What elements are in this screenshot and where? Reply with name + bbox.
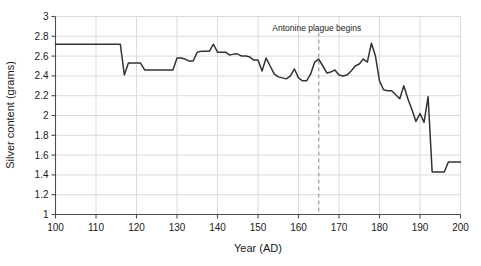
x-tick-label: 200 bbox=[452, 222, 469, 233]
x-tick-label: 110 bbox=[88, 222, 104, 233]
y-tick-label: 2.6 bbox=[35, 51, 49, 62]
x-tick-label: 120 bbox=[128, 222, 145, 233]
y-tick-label: 1.6 bbox=[35, 150, 49, 161]
y-tick-label: 2.2 bbox=[35, 90, 49, 101]
x-tick-label: 150 bbox=[250, 222, 267, 233]
y-tick-label: 1.2 bbox=[35, 189, 49, 200]
x-tick-label: 160 bbox=[290, 222, 307, 233]
y-tick-label: 1.8 bbox=[35, 130, 49, 141]
x-tick-label: 180 bbox=[371, 222, 388, 233]
y-tick-label: 2 bbox=[43, 110, 49, 121]
y-tick-label: 2.4 bbox=[35, 70, 49, 81]
silver-content-line-chart: 100110120130140150160170180190200 11.21.… bbox=[0, 0, 481, 266]
y-tick-label: 1.4 bbox=[35, 169, 49, 180]
x-axis-title: Year (AD) bbox=[234, 242, 282, 254]
y-axis-title: Silver content (grams) bbox=[4, 61, 16, 169]
y-tick-label: 2.8 bbox=[35, 31, 49, 42]
x-tick-label: 190 bbox=[412, 222, 429, 233]
x-tick-label: 170 bbox=[331, 222, 348, 233]
y-tick-label: 1 bbox=[43, 209, 49, 220]
chart-background bbox=[0, 0, 481, 266]
chart-figure: 100110120130140150160170180190200 11.21.… bbox=[0, 0, 481, 266]
y-tick-label: 3 bbox=[43, 11, 49, 22]
annotation-label-antonine-plague: Antonine plague begins bbox=[272, 23, 361, 33]
x-tick-label: 100 bbox=[47, 222, 64, 233]
x-tick-label: 130 bbox=[169, 222, 186, 233]
x-tick-label: 140 bbox=[209, 222, 226, 233]
